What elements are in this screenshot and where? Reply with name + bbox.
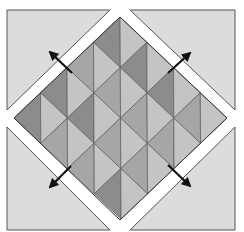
quilt-diagram [0,0,244,232]
cell-triangle-r3-c0-left [14,93,41,144]
cell-triangle-r0-c3-right [200,93,227,144]
